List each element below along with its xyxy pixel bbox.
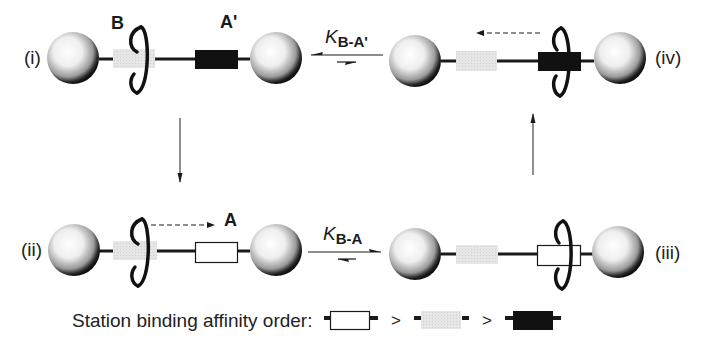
state-i-rotaxane (47, 27, 302, 93)
station-b-gray (456, 51, 497, 71)
station-b-gray (456, 245, 498, 264)
state-label-i: (i) (24, 48, 41, 67)
legend-greater-than-2: > (482, 312, 492, 329)
equilibrium-arrows-bottom (308, 249, 381, 262)
stopper-sphere-right (250, 224, 302, 276)
stopper-sphere-left (389, 228, 441, 280)
stopper-sphere-right (592, 226, 644, 278)
station-label-a-prime: A' (220, 13, 237, 31)
shuttle-diagram-canvas (0, 0, 707, 348)
k-subscript: B-A (336, 230, 363, 247)
stopper-sphere-right (250, 32, 302, 84)
stopper-sphere-right (594, 32, 646, 84)
equilibrium-arrows-top (311, 52, 383, 65)
legend-text: Station binding affinity order: (72, 311, 312, 330)
equilibrium-constant-b-a: KB-A (323, 224, 362, 246)
state-label-ii: (ii) (21, 240, 42, 259)
state-label-iii: (iii) (655, 243, 680, 262)
stopper-sphere-left (389, 35, 441, 87)
legend-white-station (324, 312, 378, 330)
legend-black-station (505, 311, 561, 330)
state-iii-rotaxane (389, 221, 644, 289)
stopper-sphere-left (48, 224, 100, 276)
legend-gray-station (414, 311, 469, 329)
state-iv-rotaxane (389, 28, 646, 96)
station-label-a: A (224, 211, 237, 229)
station-a-prime-black (538, 52, 581, 71)
k-symbol: K (325, 26, 338, 47)
stopper-sphere-left (47, 32, 99, 84)
legend-greater-than-1: > (391, 312, 401, 329)
state-ii-rotaxane (48, 219, 302, 286)
k-symbol: K (323, 223, 336, 244)
k-subscript: B-A' (338, 33, 368, 50)
station-a-white (196, 243, 238, 263)
station-label-b: B (111, 14, 124, 32)
station-a-white (538, 246, 581, 266)
equilibrium-constant-b-a-prime: KB-A' (325, 27, 368, 49)
state-label-iv: (iv) (655, 48, 681, 67)
station-a-prime-black (195, 50, 238, 69)
